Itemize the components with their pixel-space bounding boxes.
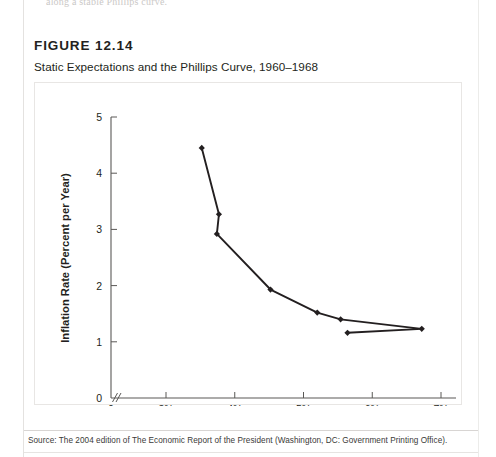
page-bleed-text: along a stable Phillips curve.	[46, 0, 346, 8]
footer-divider-bottom	[24, 452, 478, 453]
y-tick-label: 0	[96, 392, 102, 404]
x-tick-label: 6%	[365, 403, 380, 406]
figure-card: FIGURE 12.14 Static Expectations and the…	[24, 22, 478, 436]
y-axis-title: Inflation Rate (Percent per Year)	[59, 173, 71, 343]
data-point-marker	[338, 316, 344, 322]
data-point-marker	[314, 309, 320, 315]
x-tick-label: 7%	[433, 403, 448, 406]
x-axis-ticks: 3%4%5%6%7%	[158, 392, 448, 406]
footer-divider	[24, 430, 478, 431]
source-caption: Source: The 2004 edition of The Economic…	[28, 436, 447, 445]
chart-axes	[111, 117, 456, 402]
y-tick-label: 3	[96, 223, 102, 235]
y-tick-label: 2	[96, 280, 102, 292]
origin-tick-label: 0	[108, 403, 114, 406]
data-series-phillips-curve	[199, 145, 425, 336]
series-line	[202, 148, 422, 333]
x-tick-label: 3%	[158, 403, 173, 406]
data-point-marker	[419, 326, 425, 332]
data-point-marker	[216, 211, 222, 217]
phillips-curve-chart: 012345 3%4%5%6%7% 0 Unemployment Rate In…	[35, 83, 463, 406]
figure-title: Static Expectations and the Phillips Cur…	[34, 60, 318, 73]
y-tick-label: 4	[96, 167, 102, 179]
data-point-marker	[344, 330, 350, 336]
y-axis-ticks: 012345	[96, 111, 117, 404]
x-tick-label: 5%	[296, 403, 311, 406]
x-tick-label: 4%	[227, 403, 242, 406]
page-right-rule	[478, 0, 479, 457]
y-tick-label: 1	[96, 336, 102, 348]
y-tick-label: 5	[96, 111, 102, 123]
plot-frame: 012345 3%4%5%6%7% 0 Unemployment Rate In…	[34, 82, 462, 405]
data-point-marker	[199, 145, 205, 151]
figure-number-label: FIGURE 12.14	[34, 38, 133, 53]
